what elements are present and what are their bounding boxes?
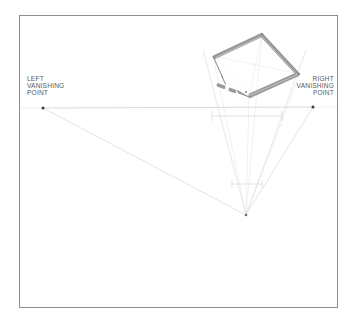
plan-inner-outline (216, 36, 297, 95)
vanishing-rays-group (43, 107, 313, 215)
right-vanishing-point-label: RIGHT VANISHING POINT (297, 75, 334, 96)
wall-segment-left-lower (222, 75, 226, 84)
station-point-marker (245, 214, 248, 217)
floor-plan-walls-group (213, 33, 300, 98)
wall-segment-detached-2 (217, 83, 225, 88)
upper-measure-line-group (212, 111, 282, 121)
plan-diagonal-b (249, 33, 262, 97)
cone-ray-left (203, 50, 246, 215)
perspective-diagram-canvas (0, 0, 358, 323)
left-vanishing-point-marker (42, 107, 45, 110)
drawing-page: LEFT VANISHING POINT RIGHT VANISHING POI… (0, 0, 358, 323)
wall-segment-detached-1 (229, 88, 236, 93)
sight-cone-group (203, 50, 306, 215)
plan-center-marker (245, 91, 247, 93)
ray-station-to-left-vp (43, 108, 246, 215)
right-vanishing-point-marker (312, 106, 315, 109)
construction-line-left-edge (213, 56, 246, 215)
page-border-frame (20, 16, 338, 308)
left-vanishing-point-label: LEFT VANISHING POINT (27, 75, 64, 96)
wall-segment-bottom-stub (237, 90, 250, 97)
horizon-line (43, 107, 313, 108)
